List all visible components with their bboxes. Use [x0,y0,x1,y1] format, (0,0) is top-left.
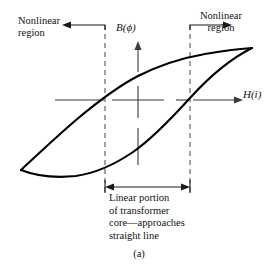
label-x-axis-field-intensity: H(i) [243,89,261,101]
y-axis-arrowhead [135,41,142,50]
nonlinear-left-line2: region [18,27,45,38]
caption-line4: straight line [109,230,159,241]
label-y-axis-flux-density: B(ϕ) [116,22,136,34]
x-axis-arrowhead [234,97,243,104]
caption-line2: of transformer [109,205,169,216]
nonlinear-right-line1: Nonlinear [200,10,242,21]
nonlinear-right-line2: region [208,22,235,33]
label-linear-portion-caption: Linear portion of transformer core—appro… [109,192,185,242]
figure-sub-caption: (a) [0,248,278,260]
nonlinear-left-line1: Nonlinear [18,15,60,26]
label-nonlinear-region-right: Nonlinear region [200,10,242,33]
leader-line-left [70,25,105,30]
label-nonlinear-region-left: Nonlinear region [18,15,60,38]
figure-hysteresis-loop: Nonlinear region Nonlinear region B(ϕ) H… [0,0,278,274]
curve-lower-branch [21,48,252,177]
caption-line1: Linear portion [109,192,169,203]
leader-arrowhead-left [62,22,71,29]
curve-upper-branch [21,48,252,170]
caption-line3: core—approaches [109,217,185,228]
